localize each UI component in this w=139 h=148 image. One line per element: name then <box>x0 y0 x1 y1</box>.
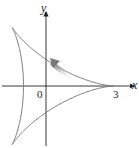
x-tick-label-3: 3 <box>113 89 119 100</box>
diagram-svg <box>0 0 139 148</box>
direction-arrow-icon <box>53 64 75 78</box>
origin-label: 0 <box>37 89 43 100</box>
deltoid-diagram: y x 0 3 <box>0 0 139 148</box>
y-axis-label: y <box>41 2 46 14</box>
x-axis-label: x <box>132 79 137 91</box>
